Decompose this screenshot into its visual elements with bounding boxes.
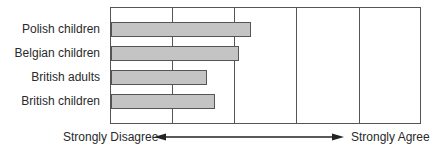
bar-british-children: [111, 94, 215, 109]
category-label: Belgian children: [15, 46, 100, 60]
gridline: [359, 8, 360, 123]
bar-polish-children: [111, 22, 251, 37]
axis-label-right: Strongly Agree: [351, 130, 430, 144]
bar-belgian-children: [111, 46, 239, 61]
axis-label-left: Strongly Disagree: [63, 130, 158, 144]
category-label: Polish children: [22, 22, 100, 36]
bar-british-adults: [111, 70, 207, 85]
category-label: British adults: [31, 70, 100, 84]
gridline: [296, 8, 297, 123]
category-label: British children: [21, 94, 100, 108]
plot-area: [110, 7, 421, 124]
double-arrow-icon: [154, 132, 344, 142]
